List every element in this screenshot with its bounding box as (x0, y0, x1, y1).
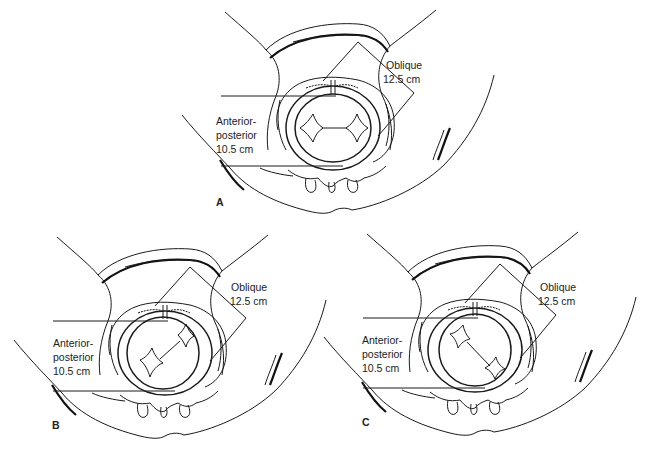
posterior-fontanelle-icon (450, 325, 470, 348)
panel-b-labels: Oblique 12.5 cm Anterior- posterior 10.5… (52, 281, 268, 431)
panel-letter-b: B (52, 419, 60, 431)
panel-c-labels: Oblique 12.5 cm Anterior- posterior 10.5… (362, 281, 576, 428)
posterior-fontanelle-icon (140, 348, 163, 377)
ap-label-line1: Anterior- (53, 337, 94, 349)
ap-label-line2: posterior (216, 129, 257, 141)
ap-label-line1: Anterior- (362, 334, 403, 346)
panel-letter-a: A (216, 196, 224, 208)
oblique-value: 12.5 cm (383, 73, 421, 85)
ap-label-line2: posterior (362, 348, 403, 360)
oblique-label: Oblique (231, 281, 267, 293)
oblique-value: 12.5 cm (230, 295, 268, 307)
posterior-fontanelle-icon (300, 114, 323, 142)
ap-value: 10.5 cm (362, 362, 400, 374)
ap-value: 10.5 cm (53, 365, 91, 377)
ap-label-line1: Anterior- (216, 115, 257, 127)
panel-a (182, 10, 494, 213)
ap-label-line2: posterior (53, 351, 94, 363)
oblique-label: Oblique (540, 281, 576, 293)
oblique-label: Oblique (386, 59, 422, 71)
ap-value: 10.5 cm (216, 143, 254, 155)
sagittal-suture (160, 341, 180, 359)
anterior-fontanelle-icon (346, 114, 368, 142)
oblique-value: 12.5 cm (538, 295, 576, 307)
sagittal-suture (467, 342, 490, 366)
pelvic-diameters-figure: Oblique 12.5 cm Anterior- posterior 10.5… (0, 0, 654, 457)
panel-letter-c: C (362, 416, 370, 428)
anterior-fontanelle-icon (485, 357, 505, 379)
anterior-fontanelle-icon (178, 324, 194, 347)
